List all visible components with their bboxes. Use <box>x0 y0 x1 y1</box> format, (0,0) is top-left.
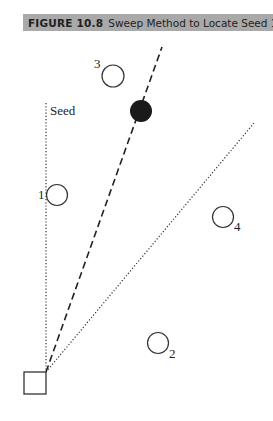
node-1-label: 1 <box>38 187 45 202</box>
sweep-diagram: 3 Seed 1 4 2 <box>0 0 273 421</box>
node-3-label: 3 <box>94 56 101 71</box>
node-3-circle <box>102 65 124 87</box>
sweep-boundary-line <box>46 123 254 372</box>
sweep-line <box>46 47 162 372</box>
seed-node-filled <box>130 100 152 122</box>
node-4-label: 4 <box>234 219 241 234</box>
node-4-circle <box>213 207 234 228</box>
seed-line-label: Seed <box>50 103 76 118</box>
node-2-label: 2 <box>169 346 176 361</box>
depot-square <box>24 372 46 394</box>
node-1-circle <box>47 185 68 206</box>
node-2-circle <box>148 333 169 354</box>
